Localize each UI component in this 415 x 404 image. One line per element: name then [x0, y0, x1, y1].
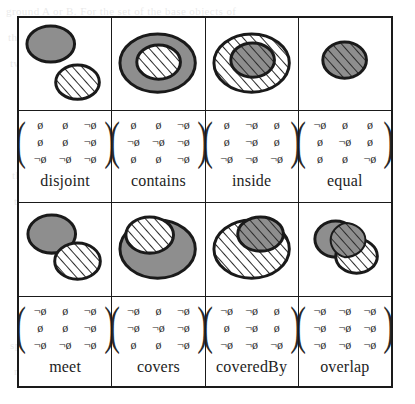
matrix-entry: ¬ø [307, 303, 332, 319]
matrix-entry: ø [53, 117, 78, 133]
paren-right: ) [384, 300, 391, 352]
matrix-entry: ¬ø [53, 337, 78, 353]
matrix-entry: ø [28, 134, 53, 150]
matrix-entry: ¬ø [171, 117, 196, 133]
matrix-entry: ø [121, 337, 146, 353]
illustration-contains [112, 18, 205, 110]
matrix-entry: ø [53, 303, 78, 319]
matrix-entry: ø [146, 117, 171, 133]
matrix-entry: ¬ø [78, 134, 103, 150]
matrix-entry: ¬ø [239, 303, 264, 319]
disjoint-diagram [19, 18, 111, 110]
matrix-entry: ¬ø [239, 320, 264, 336]
matrix-entry: ¬ø [28, 151, 53, 167]
matrix-entry: ¬ø [357, 337, 382, 353]
matrix-entry: ø [307, 134, 332, 150]
contains-diagram [112, 18, 204, 110]
paren-right: ) [104, 300, 112, 352]
paren-left: ( [19, 300, 26, 352]
matrix-cell-meet: ( ¬øø¬ø øø¬ø ¬ø¬ø¬ø ) meet [19, 297, 112, 386]
paren-left: ( [299, 115, 306, 167]
matrix-meet: ( ¬øø¬ø øø¬ø ¬ø¬ø¬ø ) [19, 299, 112, 357]
matrix-cell-equal: ( ¬øøø ø¬øø øø¬ø ) equal [299, 111, 391, 202]
matrix-entry: ¬ø [146, 320, 171, 336]
matrix-entry: ¬ø [332, 320, 357, 336]
matrix-entry: ø [146, 337, 171, 353]
paren-left: ( [19, 115, 26, 167]
matrix-entry: ø [357, 134, 382, 150]
matrix-entry: ¬ø [171, 337, 196, 353]
paren-right: ) [384, 115, 391, 167]
matrix-entry: ¬ø [214, 151, 239, 167]
matrix-cell-covers: ( ¬øø¬ø ¬ø¬ø¬ø øø¬ø ) covers [112, 297, 205, 386]
matrix-entry: ¬ø [264, 151, 289, 167]
paren-right: ) [104, 115, 112, 167]
paren-right: ) [197, 300, 205, 352]
matrix-entry: ¬ø [214, 303, 239, 319]
illustration-row-bottom [19, 203, 391, 296]
matrix-contains: ( øø¬ø ¬ø¬ø¬ø øø¬ø ) [112, 113, 205, 171]
illustration-inside [206, 18, 299, 110]
paren-left: ( [112, 115, 119, 167]
matrix-disjoint: ( øø¬ø øø¬ø ¬ø¬ø¬ø ) [19, 113, 112, 171]
illustration-disjoint [19, 18, 112, 110]
illustration-overlap [299, 203, 391, 295]
relation-label-meet: meet [49, 358, 81, 376]
paren-left: ( [206, 115, 213, 167]
matrix-overlap: ( ¬ø¬ø¬ø ¬ø¬ø¬ø ¬ø¬ø¬ø ) [299, 299, 391, 357]
overlap-diagram [299, 203, 391, 295]
matrix-entry: ¬ø [239, 117, 264, 133]
matrix-entry: ¬ø [28, 303, 53, 319]
matrix-entry: ø [121, 151, 146, 167]
matrix-entry: ¬ø [78, 337, 103, 353]
illustration-coveredby [206, 203, 299, 295]
matrix-entry: ¬ø [239, 337, 264, 353]
matrix-entry: ¬ø [332, 337, 357, 353]
inside-diagram [206, 18, 298, 110]
matrix-cell-contains: ( øø¬ø ¬ø¬ø¬ø øø¬ø ) contains [112, 111, 205, 202]
topological-relations-figure: ( øø¬ø øø¬ø ¬ø¬ø¬ø ) disjoint ( øø¬ø [17, 16, 393, 388]
paren-right: ) [290, 300, 298, 352]
matrix-entry: ø [53, 134, 78, 150]
matrix-row-bottom: ( ¬øø¬ø øø¬ø ¬ø¬ø¬ø ) meet ( ¬øø¬ø ¬ [19, 297, 391, 386]
matrix-entry: ø [264, 134, 289, 150]
matrix-entry: ¬ø [171, 303, 196, 319]
matrix-cell-inside: ( ø¬øø ø¬øø ¬ø¬ø¬ø ) inside [206, 111, 299, 202]
matrix-entry: ¬ø [357, 303, 382, 319]
matrix-entry: ø [53, 320, 78, 336]
matrix-entry: ¬ø [171, 151, 196, 167]
matrix-entry: ¬ø [239, 151, 264, 167]
matrix-entry: ø [357, 117, 382, 133]
matrix-entry: ¬ø [264, 337, 289, 353]
matrix-entry: ø [307, 151, 332, 167]
matrix-entry: ¬ø [239, 134, 264, 150]
matrix-cell-disjoint: ( øø¬ø øø¬ø ¬ø¬ø¬ø ) disjoint [19, 111, 112, 202]
matrix-entry: ¬ø [357, 151, 382, 167]
matrix-inside: ( ø¬øø ø¬øø ¬ø¬ø¬ø ) [206, 113, 299, 171]
paren-left: ( [206, 300, 213, 352]
matrix-entry: ¬ø [171, 134, 196, 150]
relation-label-overlap: overlap [320, 358, 369, 376]
matrix-entry: ø [332, 117, 357, 133]
paren-left: ( [299, 300, 306, 352]
matrix-entry: ø [214, 134, 239, 150]
matrix-coveredby: ( ¬ø¬øø ø¬øø ¬ø¬ø¬ø ) [206, 299, 299, 357]
matrix-entry: ¬ø [78, 320, 103, 336]
matrix-entry: ø [146, 151, 171, 167]
matrix-entry: ¬ø [357, 320, 382, 336]
matrix-cell-coveredby: ( ¬ø¬øø ø¬øø ¬ø¬ø¬ø ) coveredBy [206, 297, 299, 386]
meet-diagram [19, 203, 111, 295]
relation-label-disjoint: disjoint [40, 172, 90, 190]
matrix-entry: ¬ø [332, 303, 357, 319]
covers-diagram [112, 203, 204, 295]
relation-label-contains: contains [131, 172, 186, 190]
matrix-row-top: ( øø¬ø øø¬ø ¬ø¬ø¬ø ) disjoint ( øø¬ø [19, 111, 391, 203]
matrix-entry: ø [214, 320, 239, 336]
matrix-entry: ¬ø [171, 320, 196, 336]
illustration-covers [112, 203, 205, 295]
matrix-entry: ¬ø [28, 337, 53, 353]
matrix-covers: ( ¬øø¬ø ¬ø¬ø¬ø øø¬ø ) [112, 299, 205, 357]
matrix-cell-overlap: ( ¬ø¬ø¬ø ¬ø¬ø¬ø ¬ø¬ø¬ø ) overlap [299, 297, 391, 386]
equal-diagram [299, 18, 391, 110]
relation-label-covers: covers [137, 358, 180, 376]
